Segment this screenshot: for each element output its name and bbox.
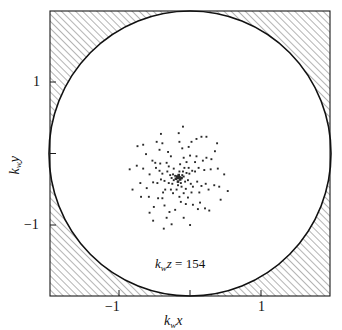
scatter-point	[210, 168, 212, 170]
scatter-point	[183, 157, 185, 159]
scatter-point	[187, 179, 189, 181]
scatter-point	[177, 174, 180, 177]
scatter-point	[213, 184, 215, 186]
scatter-point	[196, 181, 198, 183]
scatter-point	[223, 173, 225, 175]
scatter-point	[190, 183, 192, 185]
scatter-point	[166, 162, 168, 164]
scatter-point	[184, 181, 186, 183]
scatter-point	[180, 201, 182, 203]
plot-canvas	[0, 0, 342, 330]
scatter-point	[174, 209, 176, 211]
scatter-point	[204, 207, 206, 209]
scatter-point	[148, 196, 150, 198]
scatter-point	[136, 165, 138, 167]
scatter-point	[156, 141, 158, 143]
scatter-point	[201, 185, 203, 187]
hatched-exterior-region	[50, 11, 330, 296]
scatter-point	[183, 167, 185, 169]
scatter-point	[173, 179, 175, 181]
scatter-point	[216, 142, 218, 144]
scatter-point	[161, 173, 163, 175]
scatter-point	[185, 203, 187, 205]
scatter-point	[170, 155, 172, 157]
scatter-point	[142, 168, 144, 170]
scatter-point	[182, 171, 184, 173]
scatter-point	[164, 180, 166, 182]
scatter-point	[203, 169, 205, 171]
scatter-point	[188, 173, 190, 175]
scatter-point	[140, 196, 142, 198]
scatter-point	[194, 161, 196, 163]
scatter-point	[214, 150, 216, 152]
scatter-point	[177, 184, 179, 186]
scatter-point	[154, 162, 156, 164]
scatter-point	[181, 147, 183, 149]
scatter-point	[161, 197, 163, 199]
scatter-point	[157, 197, 159, 199]
scatter-point	[183, 192, 185, 194]
scatter-point	[155, 167, 157, 169]
scatter-point	[205, 136, 207, 138]
scatter-point	[168, 182, 170, 184]
scatter-point	[196, 138, 198, 140]
scatter-point	[153, 206, 155, 208]
scatter-point	[196, 155, 198, 157]
scatter-point	[173, 168, 175, 170]
scatter-point	[177, 180, 180, 183]
scatter-point	[169, 211, 171, 213]
scatter-point	[159, 170, 161, 172]
scatter-point	[182, 126, 184, 128]
scatter-point	[159, 149, 161, 151]
y-axis-title-sub: w	[13, 162, 23, 168]
scatter-point	[192, 204, 194, 206]
scatter-point	[132, 189, 134, 191]
scatter-point	[164, 205, 166, 207]
scatter-point	[186, 172, 188, 174]
scatter-point	[202, 160, 204, 162]
scatter-point	[169, 174, 171, 176]
x-axis-title: kwx	[164, 313, 182, 330]
scatter-point	[180, 177, 183, 180]
scatter-point	[172, 173, 174, 175]
scatter-point	[198, 192, 200, 194]
scatter-point	[171, 183, 173, 185]
scatter-point	[191, 170, 193, 172]
scatter-point	[205, 183, 207, 185]
scatter-point	[197, 208, 199, 210]
scatter-point	[168, 165, 170, 167]
scatter-point	[176, 189, 178, 191]
scatter-point	[156, 182, 158, 184]
x-tick-label-minus1: −1	[105, 299, 120, 315]
scatter-point	[151, 160, 153, 162]
scatter-point	[170, 189, 172, 191]
scatter-point	[191, 192, 193, 194]
x-tick-label-1: 1	[258, 299, 265, 315]
scatter-point	[137, 145, 139, 147]
scatter-point	[178, 141, 180, 143]
annotation-equals: =	[172, 256, 186, 271]
scatter-point	[192, 186, 194, 188]
annotation-value: 154	[186, 256, 206, 271]
scatter-point	[172, 192, 174, 194]
scatter-point	[129, 168, 131, 170]
scatter-point	[175, 177, 178, 180]
scatter-point	[163, 228, 165, 230]
scatter-point	[171, 177, 173, 179]
y-axis-title-var: y	[7, 156, 22, 162]
y-tick-label-1: 1	[33, 74, 40, 90]
scatter-point	[160, 133, 162, 135]
scatter-point	[164, 189, 166, 191]
scatter-point	[142, 144, 144, 146]
scatter-point	[217, 168, 219, 170]
scatter-point	[166, 217, 168, 219]
scatter-point	[166, 171, 168, 173]
x-axis-title-var: x	[176, 313, 182, 328]
scatter-point	[218, 186, 220, 188]
scatter-point	[149, 212, 151, 214]
scatter-point	[188, 146, 190, 148]
scatter-point	[186, 161, 188, 163]
scatter-point	[152, 181, 154, 183]
scatter-point	[181, 186, 183, 188]
scatter-point	[180, 182, 182, 184]
